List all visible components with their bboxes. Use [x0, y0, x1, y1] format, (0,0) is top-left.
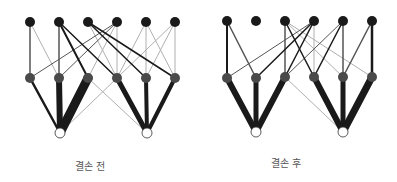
- edge: [227, 21, 314, 78]
- middle-node: [54, 73, 64, 83]
- output-node: [338, 127, 348, 137]
- edge: [343, 77, 372, 132]
- middle-node: [25, 73, 35, 83]
- top-node: [170, 17, 180, 27]
- top-node: [25, 17, 35, 27]
- output-node: [142, 128, 152, 138]
- network-diagram-canvas: [0, 0, 397, 182]
- top-node: [112, 17, 122, 27]
- edge: [88, 22, 175, 78]
- middle-node: [112, 73, 122, 83]
- edges: [30, 22, 175, 133]
- edge: [30, 78, 60, 133]
- edge: [147, 78, 175, 133]
- middle-node: [367, 72, 377, 82]
- edge: [285, 77, 343, 132]
- edge: [30, 22, 59, 78]
- diagram-before: [25, 17, 180, 138]
- caption-after: 결손 후: [271, 155, 301, 170]
- top-node: [83, 17, 93, 27]
- edge: [343, 21, 372, 77]
- output-node: [251, 127, 261, 137]
- top-node: [222, 16, 232, 26]
- edge: [314, 21, 343, 77]
- middle-node: [338, 72, 348, 82]
- middle-node: [170, 73, 180, 83]
- edge: [256, 77, 285, 132]
- top-node: [280, 16, 290, 26]
- middle-node: [251, 73, 261, 83]
- top-node: [141, 17, 151, 27]
- edge: [227, 21, 256, 78]
- middle-node: [222, 73, 232, 83]
- edge: [146, 78, 147, 133]
- edge: [88, 78, 147, 133]
- top-node: [54, 17, 64, 27]
- caption-before: 결손 전: [75, 158, 105, 173]
- edge: [117, 78, 147, 133]
- top-node: [338, 16, 348, 26]
- middle-node: [309, 72, 319, 82]
- edge: [314, 77, 343, 132]
- top-node: [367, 16, 377, 26]
- edge: [59, 22, 88, 78]
- top-node: [309, 16, 319, 26]
- middle-node: [280, 72, 290, 82]
- top-node: [251, 16, 261, 26]
- diagram-after: [222, 16, 377, 137]
- edges: [227, 21, 372, 132]
- edge: [60, 78, 88, 133]
- middle-node: [141, 73, 151, 83]
- middle-node: [83, 73, 93, 83]
- output-node: [55, 128, 65, 138]
- edge: [227, 78, 256, 132]
